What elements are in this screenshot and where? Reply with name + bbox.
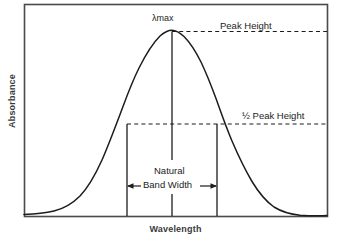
half-peak-height-label: ½ Peak Height	[240, 110, 306, 121]
natural-band-width-label-line2: Band Width	[141, 179, 194, 190]
x-axis-label: Wavelength	[24, 224, 327, 234]
y-axis-label: Absorbance	[7, 61, 17, 141]
absorption-band-figure: λmax Peak Height ½ Peak Height Natural B…	[0, 0, 340, 241]
peak-height-label: Peak Height	[218, 20, 274, 31]
natural-band-width-label-line1: Natural	[152, 165, 187, 176]
lambda-max-label: λmax	[150, 13, 176, 23]
